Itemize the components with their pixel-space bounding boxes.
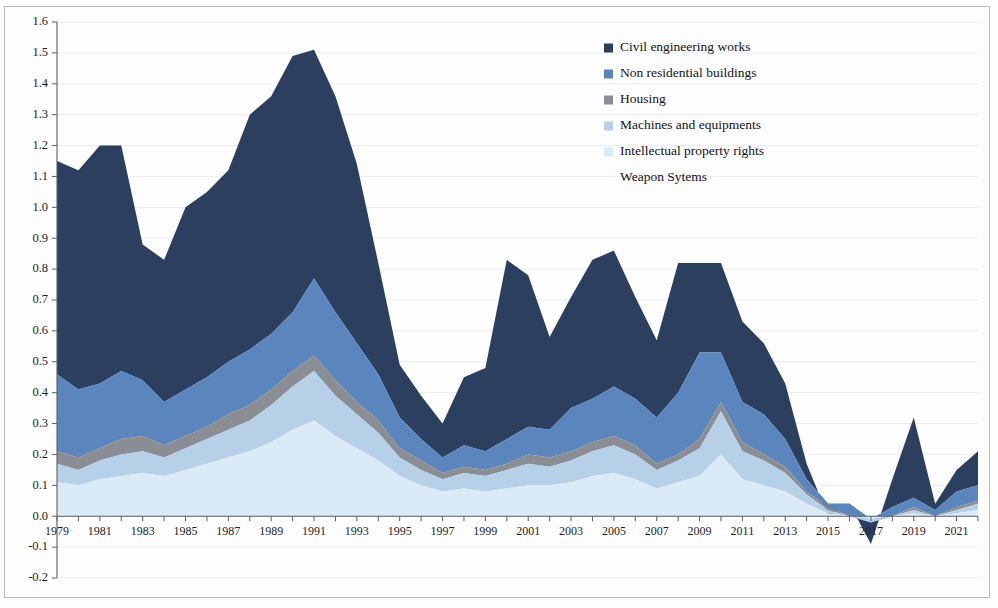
legend-label: Civil engineering works (620, 39, 750, 54)
x-tick-label: 2021 (945, 524, 969, 538)
y-tick-label: 1.1 (32, 169, 48, 183)
y-tick-label: -0.2 (28, 570, 48, 584)
legend-label: Housing (620, 91, 666, 106)
y-tick-label: 0.1 (32, 478, 48, 492)
x-tick-label: 1983 (131, 524, 155, 538)
x-tick-label: 2007 (645, 524, 669, 538)
y-tick-label: -0.1 (28, 539, 48, 553)
legend-swatch (604, 122, 613, 131)
x-tick-label: 1995 (388, 524, 412, 538)
y-tick-label: 0.6 (32, 323, 48, 337)
y-tick-label: 0.3 (32, 416, 48, 430)
x-tick-label: 1979 (45, 524, 69, 538)
y-tick-label: 0.8 (32, 261, 48, 275)
x-tick-label: 2019 (902, 524, 926, 538)
x-tick-label: 1993 (345, 524, 369, 538)
legend-label: Intellectual property rights (620, 143, 764, 158)
x-tick-label: 1999 (473, 524, 497, 538)
legend-label: Machines and equipments (620, 117, 761, 132)
legend-swatch (604, 70, 613, 79)
y-tick-label: 1.2 (32, 138, 48, 152)
x-tick-label: 1991 (302, 524, 326, 538)
x-tick-label: 2001 (516, 524, 540, 538)
legend-label: Weapon Sytems (620, 169, 707, 184)
legend-swatch (604, 96, 613, 105)
x-tick-label: 1997 (431, 524, 455, 538)
legend-swatch (604, 148, 613, 157)
y-tick-label: 0.0 (32, 509, 48, 523)
x-tick-label: 2005 (602, 524, 626, 538)
y-tick-label: 0.7 (32, 292, 48, 306)
y-tick-label: 1.6 (32, 14, 48, 28)
area-layers (57, 50, 978, 544)
x-tick-label: 1985 (174, 524, 198, 538)
y-tick-label: 0.5 (32, 354, 48, 368)
y-tick-label: 0.2 (32, 447, 48, 461)
y-tick-label: 1.4 (32, 76, 48, 90)
x-tick-label: 2009 (688, 524, 712, 538)
legend: Civil engineering worksNon residential b… (604, 39, 764, 184)
x-axis-ticks: 1979198119831985198719891991199319951997… (45, 516, 978, 538)
legend-swatch (604, 44, 613, 53)
x-tick-label: 2013 (773, 524, 797, 538)
x-tick-label: 2017 (859, 524, 883, 538)
y-tick-label: 0.4 (32, 385, 48, 399)
x-tick-label: 2015 (816, 524, 840, 538)
y-tick-label: 1.0 (32, 200, 48, 214)
x-tick-label: 1981 (88, 524, 112, 538)
y-tick-label: 1.5 (32, 45, 48, 59)
chart-figure: 1.61.51.41.31.21.11.00.90.80.70.60.50.40… (0, 0, 998, 608)
y-tick-label: 1.3 (32, 107, 48, 121)
legend-label: Non residential buildings (620, 65, 756, 80)
x-tick-label: 1989 (259, 524, 283, 538)
y-tick-label: 0.9 (32, 231, 48, 245)
x-tick-label: 1987 (216, 524, 240, 538)
x-tick-label: 2011 (731, 524, 755, 538)
x-tick-label: 2003 (559, 524, 583, 538)
stacked-area-chart: 1.61.51.41.31.21.11.00.90.80.70.60.50.40… (0, 0, 998, 608)
